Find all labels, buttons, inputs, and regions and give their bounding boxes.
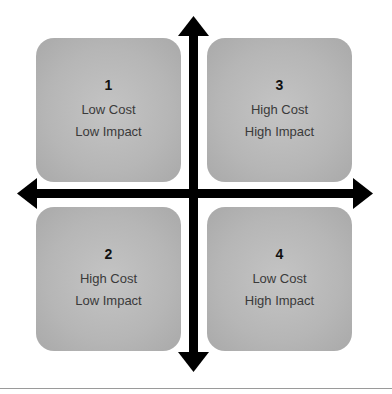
arrow-left-icon — [17, 178, 37, 209]
divider — [0, 388, 392, 389]
arrow-up-icon — [178, 16, 209, 36]
arrow-down-icon — [178, 352, 209, 372]
axes-arrows — [0, 0, 392, 394]
arrow-right-icon — [353, 178, 373, 209]
horizontal-axis — [32, 189, 356, 198]
